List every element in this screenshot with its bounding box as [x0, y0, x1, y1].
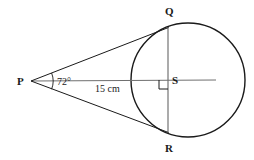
- label-point-p: P: [17, 75, 24, 87]
- label-point-q: Q: [165, 5, 174, 17]
- geometry-diagram: P Q R S 72° 15 cm: [0, 0, 254, 160]
- geometry-canvas: P Q R S 72° 15 cm: [0, 0, 254, 160]
- label-point-s: S: [172, 74, 178, 86]
- label-angle-72: 72°: [57, 76, 71, 87]
- tangent-pq-line: [31, 28, 169, 82]
- right-angle-mark-icon: [159, 80, 168, 89]
- label-point-r: R: [165, 142, 174, 154]
- label-distance-15cm: 15 cm: [95, 83, 120, 94]
